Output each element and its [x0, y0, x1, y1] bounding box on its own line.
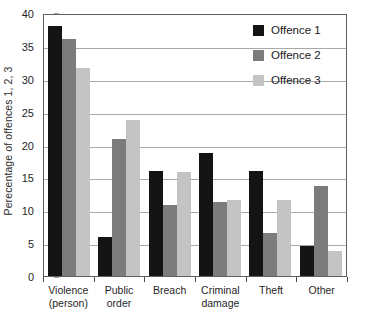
- x-axis-label-line: Other: [309, 284, 335, 296]
- bar[interactable]: [76, 68, 90, 276]
- bar[interactable]: [328, 251, 342, 276]
- bar-group: [94, 15, 144, 276]
- x-axis-label-line: damage: [196, 297, 245, 310]
- legend-item[interactable]: Offence 2: [253, 49, 321, 61]
- y-tick-label: 30: [22, 74, 34, 86]
- bar[interactable]: [98, 237, 112, 276]
- bar[interactable]: [126, 120, 140, 276]
- bar-group: [195, 15, 245, 276]
- x-tick-mark: [347, 277, 348, 282]
- y-tick-label: 0: [28, 271, 34, 283]
- x-axis-label-line: Violence: [48, 284, 88, 296]
- y-tick-label: 40: [22, 8, 34, 20]
- bar[interactable]: [149, 171, 163, 276]
- y-axis-tick-labels: 0510152025303540: [16, 0, 38, 282]
- bar-group: [145, 15, 195, 276]
- x-tick-mark: [43, 277, 44, 282]
- legend-label: Offence 3: [271, 74, 321, 86]
- legend-label: Offence 2: [271, 49, 321, 61]
- bar[interactable]: [249, 171, 263, 276]
- bar-chart: Perecentage of offences 1, 2, 3 05101520…: [0, 0, 365, 315]
- bar-group: [44, 15, 94, 276]
- bar[interactable]: [163, 205, 177, 276]
- y-tick-label: 20: [22, 140, 34, 152]
- y-tick-label: 35: [22, 41, 34, 53]
- x-axis-label: Other: [296, 284, 347, 315]
- legend: Offence 1Offence 2Offence 3: [253, 24, 321, 86]
- bar[interactable]: [199, 153, 213, 276]
- x-axis-label-line: Theft: [259, 284, 283, 296]
- x-tick-mark: [144, 277, 145, 282]
- x-tick-mark: [296, 277, 297, 282]
- bar[interactable]: [277, 200, 291, 276]
- bar[interactable]: [300, 246, 314, 276]
- bar[interactable]: [112, 139, 126, 276]
- bar[interactable]: [48, 26, 62, 276]
- x-axis-label: Publicorder: [94, 284, 145, 315]
- bar[interactable]: [62, 39, 76, 276]
- y-axis-title-text: Perecentage of offences 1, 2, 3: [2, 67, 14, 216]
- x-axis-label: Criminaldamage: [195, 284, 246, 315]
- x-axis-label-line: Criminal: [201, 284, 240, 296]
- bar[interactable]: [213, 202, 227, 276]
- y-tick-label: 25: [22, 107, 34, 119]
- bar[interactable]: [314, 186, 328, 276]
- x-axis-label-line: order: [95, 297, 144, 310]
- legend-swatch-icon: [253, 50, 264, 61]
- x-axis-label: Theft: [246, 284, 297, 315]
- bar[interactable]: [177, 172, 191, 276]
- legend-item[interactable]: Offence 3: [253, 74, 321, 86]
- x-tick-mark: [94, 277, 95, 282]
- x-axis-label-line: Breach: [153, 284, 186, 296]
- x-axis-label: Violence(person): [43, 284, 94, 315]
- x-axis-label-line: (person): [44, 297, 93, 310]
- legend-label: Offence 1: [271, 24, 321, 36]
- x-axis-labels: Violence(person)PublicorderBreachCrimina…: [43, 284, 347, 315]
- x-axis-label-line: Public: [105, 284, 134, 296]
- legend-swatch-icon: [253, 25, 264, 36]
- bar[interactable]: [227, 200, 241, 276]
- y-tick-label: 5: [28, 238, 34, 250]
- legend-item[interactable]: Offence 1: [253, 24, 321, 36]
- bar[interactable]: [263, 233, 277, 276]
- y-axis-title: Perecentage of offences 1, 2, 3: [0, 0, 16, 282]
- x-tick-mark: [195, 277, 196, 282]
- legend-swatch-icon: [253, 75, 264, 86]
- x-tick-mark: [246, 277, 247, 282]
- x-axis-label: Breach: [144, 284, 195, 315]
- x-axis-tick-marks: [43, 277, 347, 283]
- y-tick-label: 15: [22, 172, 34, 184]
- y-tick-label: 10: [22, 205, 34, 217]
